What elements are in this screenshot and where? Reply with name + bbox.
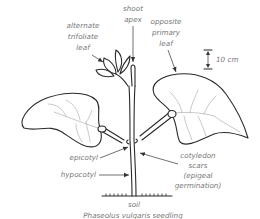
svg-text:germination): germination) <box>175 181 222 190</box>
scale-bar: 10 cm <box>204 50 238 69</box>
scale-label: 10 cm <box>216 55 238 64</box>
svg-text:shoot: shoot <box>123 4 144 13</box>
svg-text:cotyledon: cotyledon <box>180 151 216 160</box>
svg-text:apex: apex <box>124 15 142 24</box>
label-alternate-trifoliate-leaf: alternate trifoliate leaf <box>67 21 103 62</box>
label-opposite-primary-leaf: opposite primary leaf <box>151 17 182 72</box>
stem <box>127 86 138 196</box>
svg-text:opposite: opposite <box>151 17 182 26</box>
label-shoot-apex: shoot apex <box>123 4 144 62</box>
svg-text:scars: scars <box>189 161 208 170</box>
svg-text:hypocotyl: hypocotyl <box>61 170 96 179</box>
left-primary-leaf <box>22 93 101 147</box>
svg-text:epicotyl: epicotyl <box>70 153 98 162</box>
label-hypocotyl: hypocotyl <box>61 170 129 179</box>
soil-line <box>102 194 172 197</box>
shoot-apex <box>131 65 135 86</box>
trifoliate-leaf <box>96 50 130 86</box>
label-soil: soil <box>128 200 140 209</box>
left-petiole <box>98 126 124 143</box>
svg-text:(epigeal: (epigeal <box>183 171 212 180</box>
label-epicotyl: epicotyl <box>70 147 128 162</box>
svg-text:leaf: leaf <box>159 39 174 48</box>
svg-text:trifoliate: trifoliate <box>68 32 99 41</box>
right-petiole <box>140 111 176 141</box>
svg-text:primary: primary <box>151 28 181 37</box>
svg-text:Phaseolus vulgaris seedling: Phaseolus vulgaris seedling <box>83 211 183 219</box>
caption-rest: seedling <box>150 211 183 219</box>
diagram-caption: Phaseolus vulgaris seedling <box>83 211 183 219</box>
caption-species: Phaseolus vulgaris <box>83 211 150 219</box>
svg-text:leaf: leaf <box>76 43 91 52</box>
svg-text:alternate: alternate <box>67 21 100 30</box>
label-cotyledon-scars: cotyledon scars (epigeal germination) <box>140 151 221 190</box>
svg-text:soil: soil <box>128 200 140 209</box>
right-primary-leaf <box>153 74 248 144</box>
seedling-diagram: 10 cm shoot apex alternate trifoliate le… <box>0 0 260 219</box>
